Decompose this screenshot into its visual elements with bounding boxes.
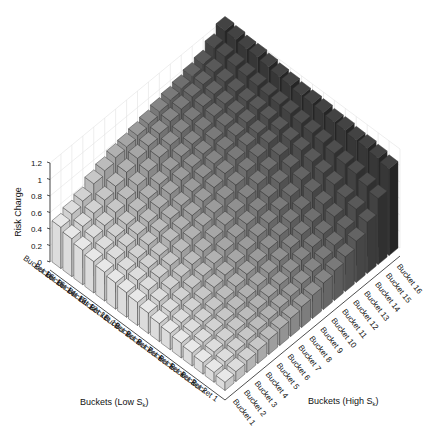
z-tick-label: 1 <box>38 176 43 185</box>
risk-charge-3d-bar-chart: Risk Charge 00.20.40.60.811.2 Bucket 1Bu… <box>0 0 439 436</box>
z-tick-label: 0.2 <box>31 242 43 251</box>
z-axis: Risk Charge 00.20.40.60.811.2 <box>13 159 50 267</box>
low-sk-axis-title: Buckets (Low Sk) <box>80 397 149 408</box>
z-tick-label: 0.4 <box>31 225 43 234</box>
z-tick-label: 1.2 <box>31 159 43 168</box>
z-tick-label: 0.8 <box>31 192 43 201</box>
z-tick-label: 0.6 <box>31 209 43 218</box>
high-sk-axis-title: Buckets (High Sk) <box>308 396 379 407</box>
z-axis-title: Risk Charge <box>13 187 23 237</box>
